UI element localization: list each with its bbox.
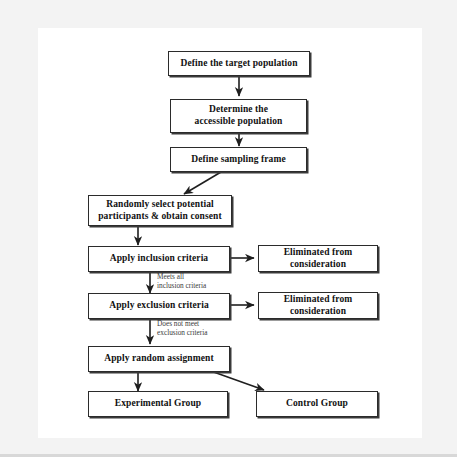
edge-label-does-not-meet-exclusion-criteria: Does not meet exclusion criteria [157, 320, 207, 338]
node-label: Define sampling frame [191, 154, 285, 166]
node-label: Define the target population [180, 58, 297, 70]
node-apply-exclusion-criteria[interactable]: Apply exclusion criteria [88, 293, 230, 319]
node-apply-random-assignment[interactable]: Apply random assignment [88, 346, 230, 372]
node-label: Control Group [286, 398, 348, 410]
diagram-canvas [38, 28, 422, 438]
node-label: Eliminated from consideration [284, 294, 353, 318]
node-label: Apply exclusion criteria [109, 300, 209, 312]
node-eliminated-from-consideration-1[interactable]: Eliminated from consideration [258, 245, 378, 272]
node-label: Determine the accessible population [195, 104, 283, 128]
node-apply-inclusion-criteria[interactable]: Apply inclusion criteria [88, 246, 230, 272]
node-experimental-group[interactable]: Experimental Group [88, 391, 228, 417]
page-frame: Define the target population Determine t… [0, 0, 457, 457]
node-define-target-population[interactable]: Define the target population [168, 51, 310, 76]
node-label: Apply random assignment [104, 353, 213, 365]
edge-label-meets-inclusion-criteria: Meets all inclusion criteria [157, 273, 206, 291]
node-determine-accessible-population[interactable]: Determine the accessible population [170, 99, 307, 133]
node-eliminated-from-consideration-2[interactable]: Eliminated from consideration [258, 292, 378, 319]
node-label: Apply inclusion criteria [110, 253, 208, 265]
node-randomly-select-participants[interactable]: Randomly select potential participants &… [88, 195, 232, 226]
node-control-group[interactable]: Control Group [256, 391, 378, 417]
node-label: Eliminated from consideration [284, 247, 353, 271]
node-label: Randomly select potential participants &… [98, 199, 222, 223]
node-label: Experimental Group [115, 398, 201, 410]
node-define-sampling-frame[interactable]: Define sampling frame [170, 147, 307, 172]
